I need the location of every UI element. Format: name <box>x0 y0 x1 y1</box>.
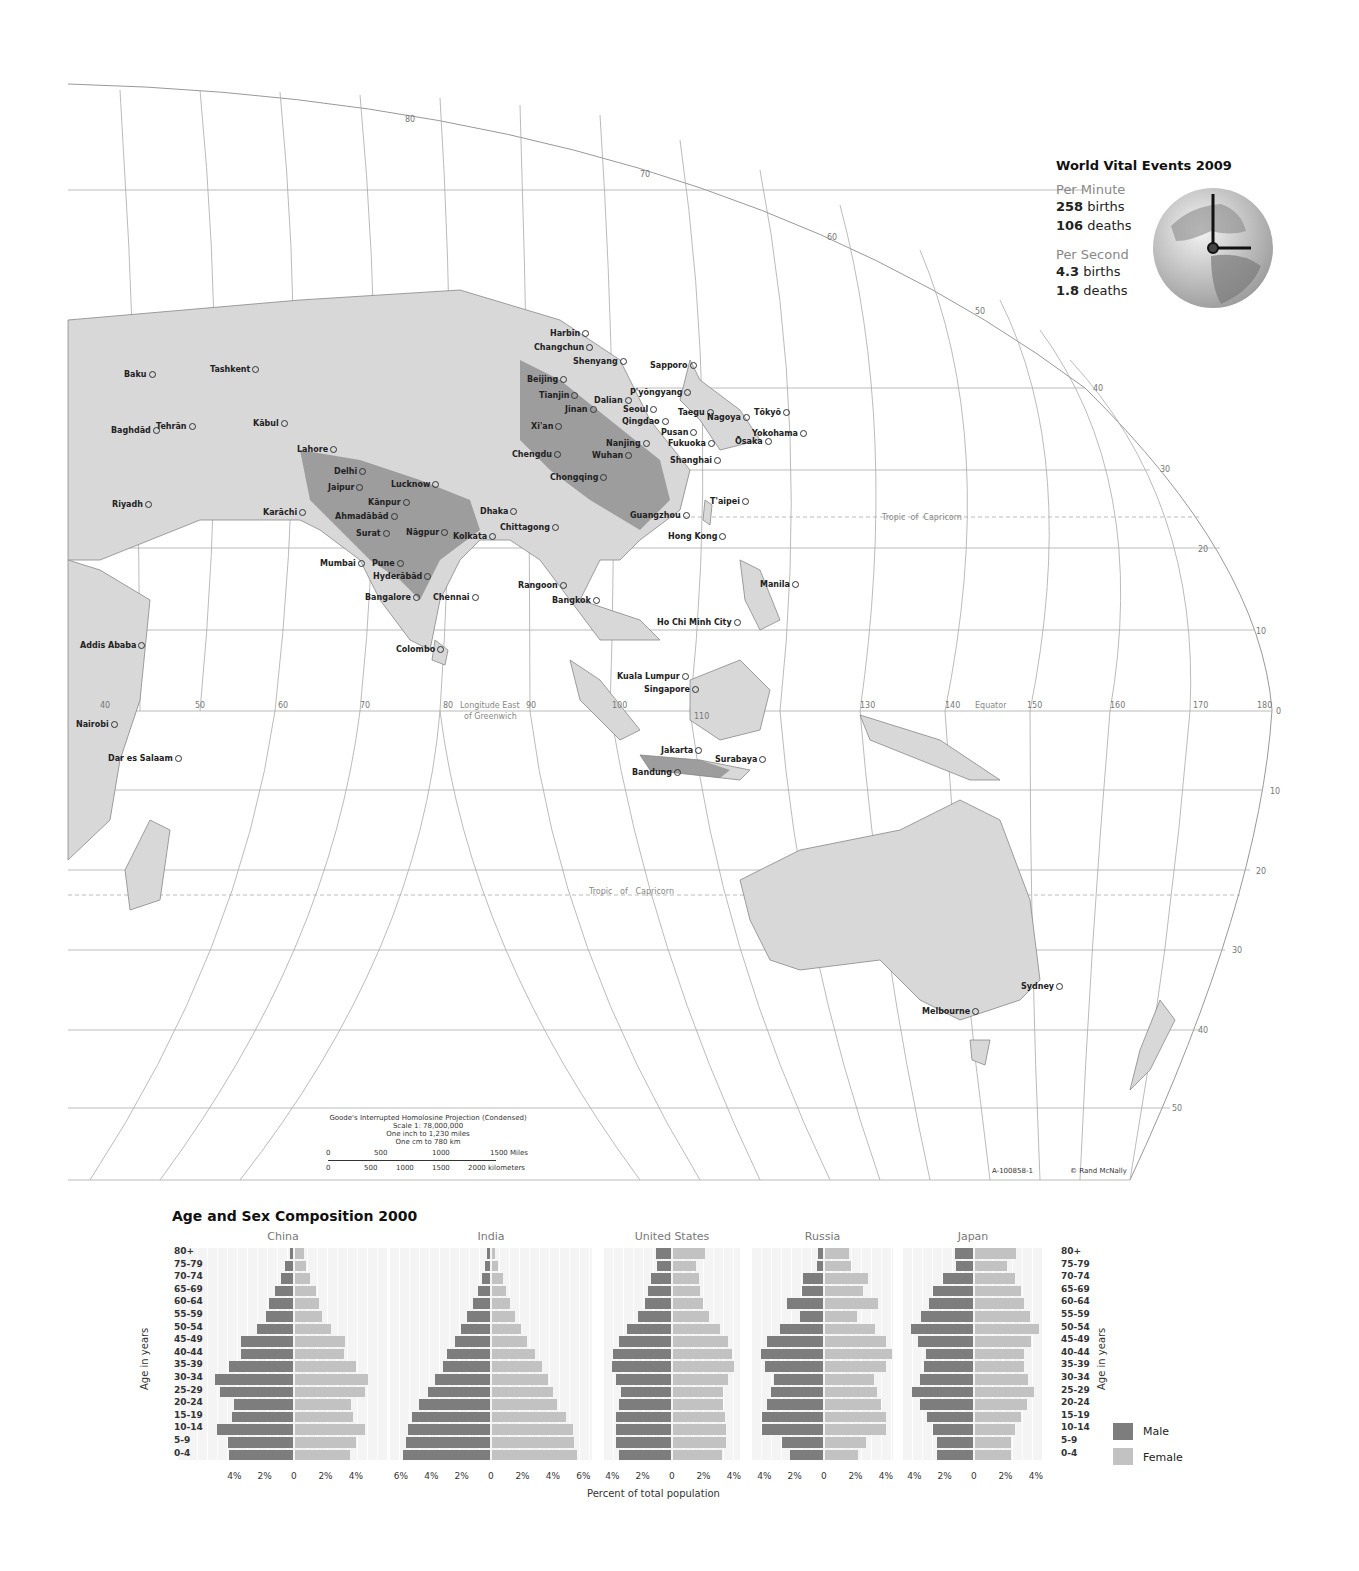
city-name: Nāgpur <box>406 528 439 537</box>
city-label: Qingdao <box>622 417 671 426</box>
female-bar <box>295 1437 356 1448</box>
city-name: Fukuoka <box>668 439 706 448</box>
city-dot-icon <box>972 1008 979 1015</box>
male-bar <box>412 1412 490 1423</box>
city-dot-icon <box>593 597 600 604</box>
city-label: Lucknow <box>391 480 441 489</box>
male-bar <box>229 1361 293 1372</box>
city-name: Singapore <box>644 685 690 694</box>
female-bar <box>295 1248 304 1259</box>
city-dot-icon <box>600 474 607 481</box>
female-bar <box>825 1349 892 1360</box>
world-map-asia-oceania: 80 70 60 50 40 30 20 10 0 10 20 30 40 50… <box>0 0 1359 1200</box>
female-bar <box>825 1298 878 1309</box>
male-bar <box>266 1311 293 1322</box>
male-bar <box>281 1273 293 1284</box>
city-label: Changchun <box>534 343 595 352</box>
male-bar <box>933 1286 973 1297</box>
city-dot-icon <box>153 427 160 434</box>
lat-label-right: 40 <box>1093 384 1103 393</box>
city-label: Ōsaka <box>735 437 774 446</box>
female-bar <box>295 1261 306 1272</box>
female-bar <box>492 1248 495 1259</box>
miles-tick: 1500 Miles <box>490 1149 528 1157</box>
legend-male-swatch <box>1113 1423 1133 1440</box>
city-name: Lahore <box>297 445 328 454</box>
female-bar <box>673 1412 725 1423</box>
city-label: Manila <box>760 580 801 589</box>
male-bar <box>767 1336 823 1347</box>
city-dot-icon <box>734 619 741 626</box>
female-bar <box>673 1450 722 1461</box>
male-bar <box>619 1450 671 1461</box>
city-dot-icon <box>643 440 650 447</box>
male-bar <box>787 1298 823 1309</box>
female-bar <box>825 1387 877 1398</box>
city-name: Xi'an <box>531 422 553 431</box>
female-bar <box>825 1399 881 1410</box>
male-bar <box>762 1412 823 1423</box>
city-dot-icon <box>189 423 196 430</box>
city-name: Ōsaka <box>735 437 763 446</box>
lon-label: 160 <box>1110 701 1125 710</box>
city-name: Surabaya <box>715 755 757 764</box>
city-label: Chengdu <box>512 450 563 459</box>
pyramid-country-name: United States <box>604 1230 740 1243</box>
female-bar <box>295 1273 310 1284</box>
city-dot-icon <box>437 646 444 653</box>
capricorn-word: Capricorn <box>923 513 962 522</box>
city-label: Singapore <box>644 685 701 694</box>
female-bar <box>825 1273 868 1284</box>
x-tick-label: 4% <box>546 1471 560 1481</box>
city-name: Harbin <box>550 329 580 338</box>
male-bar <box>648 1286 671 1297</box>
age-group-label: 70-74 <box>174 1271 203 1281</box>
age-group-label: 50-54 <box>1061 1322 1090 1332</box>
city-label: Guangzhou <box>630 511 692 520</box>
scale-block: Goode's Interrupted Homolosine Projectio… <box>318 1114 538 1175</box>
female-bar <box>295 1399 351 1410</box>
city-label: Mumbai <box>320 559 367 568</box>
city-dot-icon <box>441 529 448 536</box>
city-dot-icon <box>690 429 697 436</box>
male-bar <box>428 1387 490 1398</box>
city-dot-icon <box>391 513 398 520</box>
city-name: Chongqing <box>550 473 598 482</box>
male-bar <box>228 1437 293 1448</box>
city-dot-icon <box>682 673 689 680</box>
deaths-unit: deaths <box>1083 218 1131 233</box>
city-label: Nairobi <box>76 720 120 729</box>
city-dot-icon <box>281 420 288 427</box>
male-bar <box>616 1424 671 1435</box>
female-bar <box>492 1450 577 1461</box>
city-dot-icon <box>692 686 699 693</box>
age-group-label: 15-19 <box>174 1410 203 1420</box>
city-name: Colombo <box>396 645 435 654</box>
pyramid-china: China4%2%02%4% <box>178 1230 388 1490</box>
female-bar <box>673 1273 699 1284</box>
city-label: T'aipei <box>710 497 751 506</box>
globe-clock-icon <box>1151 186 1275 310</box>
lon-label: 150 <box>1027 701 1042 710</box>
city-label: Jaipur <box>328 483 365 492</box>
city-name: Karāchi <box>263 508 297 517</box>
km-tick: 1000 <box>396 1164 414 1172</box>
tropic-label-bottom: Tropic of Capricorn <box>589 887 674 896</box>
city-name: Guangzhou <box>630 511 681 520</box>
pyramid-japan: Japan4%2%02%4% <box>903 1230 1043 1490</box>
male-bar <box>619 1399 671 1410</box>
male-bar <box>435 1374 490 1385</box>
male-bar <box>918 1336 973 1347</box>
lat-label-70: 70 <box>640 170 650 179</box>
city-label: Bandung <box>632 768 683 777</box>
female-bar <box>975 1361 1024 1372</box>
city-name: Jinan <box>565 405 588 414</box>
age-group-label: 70-74 <box>1061 1271 1090 1281</box>
male-bar <box>403 1450 490 1461</box>
female-bar <box>673 1361 734 1372</box>
city-dot-icon <box>358 560 365 567</box>
lat-label-right: 20 <box>1198 545 1208 554</box>
km-tick: 1500 <box>432 1164 450 1172</box>
city-dot-icon <box>359 468 366 475</box>
male-bar <box>921 1311 973 1322</box>
